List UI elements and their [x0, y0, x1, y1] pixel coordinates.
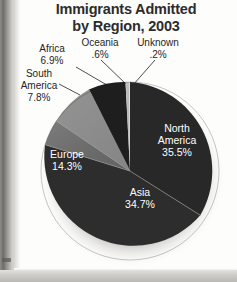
label-unknown: Unknown .2%: [130, 37, 186, 60]
label-asia-value: 34.7%: [125, 198, 155, 210]
label-south-america-value: 7.8%: [8, 92, 70, 104]
leader-line-unknown: [133, 60, 155, 85]
label-north-america-name: North: [164, 122, 190, 134]
label-south-america: South America 7.8%: [8, 68, 70, 104]
label-oceania: Oceania .6%: [74, 37, 126, 60]
label-south-america-name-2: America: [8, 80, 70, 92]
label-africa: Africa 6.9%: [26, 43, 78, 66]
label-africa-name: Africa: [39, 43, 65, 54]
label-south-america-name: South: [26, 68, 52, 79]
label-unknown-name: Unknown: [137, 37, 179, 48]
label-oceania-value: .6%: [74, 49, 126, 61]
label-oceania-name: Oceania: [81, 37, 118, 48]
label-asia-name: Asia: [130, 186, 150, 198]
page-bottom-band: [0, 270, 237, 282]
scanned-page: Immigrants Admitted by Region, 2003: [0, 0, 237, 282]
label-europe-name: Europe: [50, 148, 84, 160]
label-unknown-value: .2%: [130, 49, 186, 61]
label-north-america-value: 35.5%: [162, 146, 192, 158]
page-corner-mark: [2, 258, 11, 262]
label-north-america: North America 35.5%: [141, 122, 213, 158]
label-africa-value: 6.9%: [26, 55, 78, 67]
label-asia: Asia 34.7%: [104, 186, 176, 210]
label-europe: Europe 14.3%: [34, 148, 100, 172]
label-europe-value: 14.3%: [52, 160, 82, 172]
label-north-america-name-2: America: [158, 134, 197, 146]
